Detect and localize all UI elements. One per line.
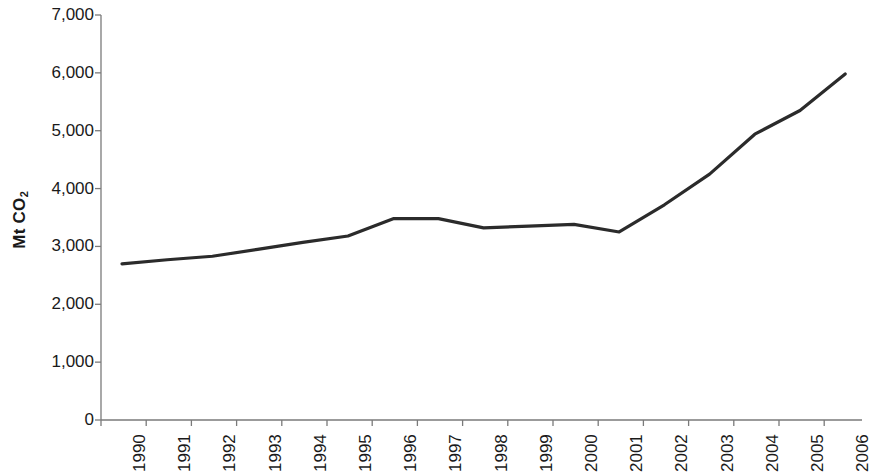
data-series-line xyxy=(122,74,845,264)
axes xyxy=(101,15,862,420)
axis-ticks xyxy=(95,15,824,426)
